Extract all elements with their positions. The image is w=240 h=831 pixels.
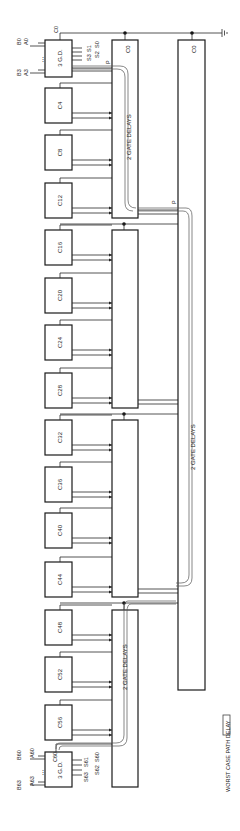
- input-a60: A60: [29, 748, 35, 758]
- second-level-cin: C0: [191, 45, 197, 53]
- lookahead-unit-2: [112, 230, 138, 408]
- sum-s61: S61: [83, 757, 89, 767]
- group-label: C16: [57, 241, 63, 253]
- group-label: C8: [57, 148, 63, 156]
- group-label: C4: [57, 101, 63, 109]
- group-label: C44: [57, 573, 63, 585]
- legend: WORST CASE PATH DELAY: [223, 715, 231, 792]
- sum-s1: S1: [86, 45, 92, 52]
- sum-s2: S2: [94, 51, 100, 58]
- second-level-unit: [178, 40, 205, 690]
- last-group-label: 3 G.D.: [57, 761, 63, 779]
- input-b63: B63: [16, 780, 22, 790]
- group-label: C56: [57, 716, 63, 728]
- group-label: C12: [57, 194, 63, 206]
- delay-label-2: 2 GATE DELAYS: [190, 424, 196, 470]
- group-label: C48: [57, 621, 63, 633]
- ellipsis: ⋮: [40, 56, 46, 62]
- first-group-cin: C0: [53, 26, 59, 33]
- input-b3: B3: [16, 69, 22, 76]
- delay-label-1: 2 GATE DELAYS: [126, 114, 132, 160]
- signal-p2: P: [171, 200, 177, 204]
- group-label: C32: [57, 431, 63, 443]
- ellipsis: ⋮: [40, 769, 46, 775]
- sum-s63: S63: [83, 772, 89, 782]
- group-label: C28: [57, 384, 63, 396]
- delay-label-4: 2 GATE DELAYS: [122, 644, 128, 690]
- input-a3: A3: [23, 69, 29, 76]
- group-label: C24: [57, 336, 63, 348]
- group-label: C40: [57, 524, 63, 536]
- signal-p: P: [105, 60, 111, 64]
- lookahead-unit-4: [112, 610, 138, 787]
- group-label: C20: [57, 289, 63, 301]
- input-a0: A0: [23, 38, 29, 45]
- sum-s60: S60: [94, 752, 100, 762]
- ground-icon: [222, 29, 227, 37]
- carry-lookahead-diagram: 3 G.D. C0 A0 A3 B0 B3 ⋮ S0 S1 S2 S3 P G …: [0, 0, 240, 831]
- legend-label: WORST CASE PATH DELAY: [225, 720, 231, 792]
- group-label: C52: [57, 668, 63, 680]
- first-group-label: 3 G.D.: [57, 49, 63, 67]
- last-group-cin: C60: [52, 752, 58, 762]
- sum-s0: S0: [94, 41, 100, 48]
- lookahead-1-cin: C0: [125, 45, 131, 53]
- lookahead-unit-3: [112, 420, 138, 597]
- sum-s3: S3: [86, 54, 92, 61]
- input-b0: B0: [16, 38, 22, 45]
- input-b60: B60: [16, 750, 22, 760]
- input-a63: A63: [29, 776, 35, 786]
- group-label: C36: [57, 478, 63, 490]
- sum-s62: S62: [94, 765, 100, 775]
